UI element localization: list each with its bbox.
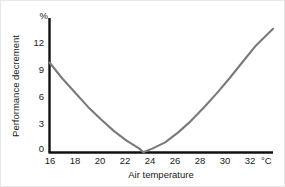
y-tick-label-12: 12 — [33, 38, 44, 48]
y-tick-label-6: 6 — [39, 92, 44, 102]
x-tick-label-22: 22 — [120, 156, 131, 166]
y-axis-unit-label: % — [40, 11, 48, 21]
y-tick-label-9: 9 — [39, 65, 44, 75]
x-tick-label-28: 28 — [195, 156, 206, 166]
x-tick-label-26: 26 — [170, 156, 181, 166]
performance-decrement-chart: % 12 9 6 3 0 16 18 20 22 24 26 28 30 32 … — [0, 0, 285, 187]
x-tick-label-20: 20 — [95, 156, 106, 166]
x-tick-label-16: 16 — [45, 156, 56, 166]
y-tick-label-0: 0 — [39, 144, 44, 154]
x-axis-unit-label: °C — [261, 156, 272, 166]
x-tick-label-18: 18 — [70, 156, 81, 166]
y-tick-label-3: 3 — [39, 119, 44, 129]
x-axis-title: Air temperature — [128, 170, 193, 180]
x-tick-label-30: 30 — [220, 156, 231, 166]
x-tick-label-32: 32 — [245, 156, 256, 166]
y-axis-title: Performance decrement — [10, 35, 21, 137]
x-tick-label-24: 24 — [145, 156, 156, 166]
performance-decrement-curve — [50, 29, 274, 152]
